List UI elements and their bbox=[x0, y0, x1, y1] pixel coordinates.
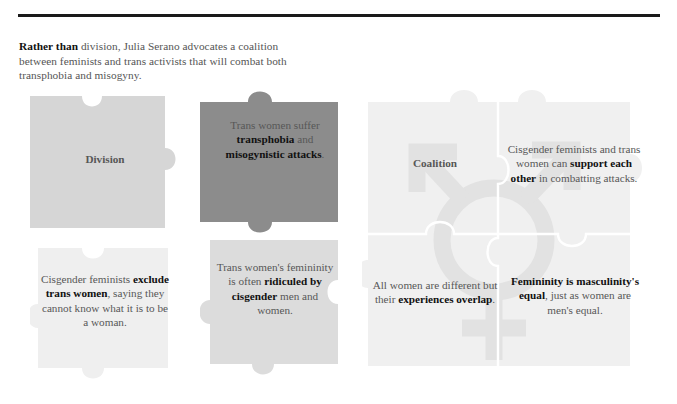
puzzle-piece-ridiculed: Trans women's femininity is often ridicu… bbox=[200, 236, 350, 386]
intro-lead: Rather than bbox=[19, 40, 78, 52]
puzzle-piece-attacks: Trans women suffer transphobia and misog… bbox=[200, 90, 350, 234]
puzzle-piece-ridiculed-text: Trans women's femininity is often ridicu… bbox=[200, 260, 350, 318]
puzzle-piece-exclude: Cisgender feminists exclude trans women,… bbox=[30, 240, 180, 388]
puzzle-piece-division: Division bbox=[30, 96, 180, 228]
header-divider-rule bbox=[18, 14, 660, 17]
puzzle-piece-exclude-text: Cisgender feminists exclude trans women,… bbox=[30, 272, 180, 330]
puzzle-piece-attacks-shape bbox=[200, 90, 350, 234]
coalition-cell-label: Coalition bbox=[370, 156, 500, 170]
coalition-cell-support-text: Cisgender feminists and trans women can … bbox=[500, 142, 648, 185]
coalition-cell-equal-text: Femininity is masculinity's equal, just … bbox=[502, 274, 648, 317]
puzzle-piece-attacks-text: Trans women suffer transphobia and misog… bbox=[200, 118, 350, 161]
coalition-cell-overlap-text: All women are different but their experi… bbox=[370, 278, 500, 307]
intro-paragraph: Rather than division, Julia Serano advoc… bbox=[19, 39, 319, 83]
puzzle-group-coalition: Coalition Cisgender feminists and trans … bbox=[362, 88, 652, 380]
coalition-puzzle-shape bbox=[362, 88, 652, 380]
puzzle-piece-division-label: Division bbox=[30, 152, 180, 166]
